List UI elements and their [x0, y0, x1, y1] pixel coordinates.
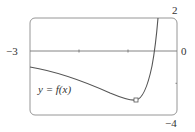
y-max-label: 2	[172, 5, 178, 16]
minimum-marker	[134, 98, 138, 102]
curve-label: y = f(x)	[38, 84, 71, 95]
plot-frame	[30, 18, 177, 115]
x-max-label: 0	[181, 46, 187, 57]
x-min-label: −3	[6, 46, 18, 57]
y-min-label: −4	[165, 118, 177, 129]
chart-canvas	[0, 0, 195, 132]
